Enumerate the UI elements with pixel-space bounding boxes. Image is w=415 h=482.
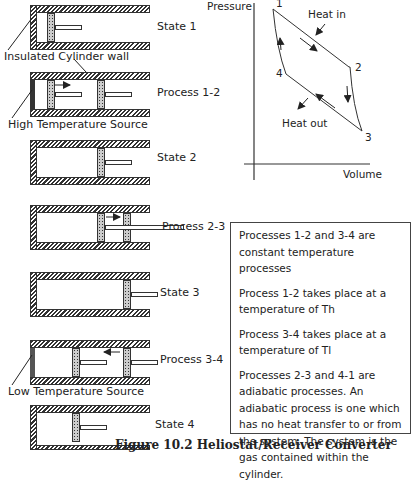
- label-heat-in: Heat in: [308, 8, 346, 20]
- notes-box: Processes 1-2 and 3-4 are constant tempe…: [230, 222, 411, 434]
- note-process-1-2: Process 1-2 takes place at a temperature…: [239, 285, 402, 318]
- point-1: 1: [276, 0, 283, 9]
- note-process-3-4: Process 3-4 takes place at a temperature…: [239, 326, 402, 359]
- label-heat-out: Heat out: [282, 117, 327, 129]
- figure-caption: Figure 10.2 Heliostat/Receiver Converter: [115, 438, 392, 452]
- note-adiabatic: Processes 2-3 and 4-1 are adiabatic proc…: [239, 367, 402, 482]
- point-3: 3: [365, 131, 372, 143]
- axis-label-volume: Volume: [343, 168, 382, 180]
- point-2: 2: [355, 61, 362, 73]
- axis-label-pressure: Pressure: [207, 0, 252, 12]
- note-constant-temperature: Processes 1-2 and 3-4 are constant tempe…: [239, 227, 402, 277]
- point-4: 4: [276, 67, 283, 79]
